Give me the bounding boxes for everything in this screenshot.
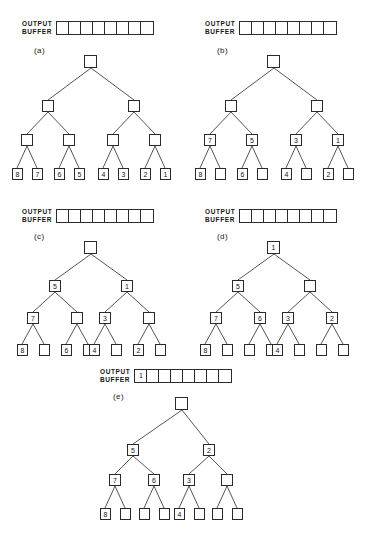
tree-edges — [0, 0, 182, 200]
tree-node-leaf: 1 — [160, 168, 171, 180]
tree-node-leaf — [301, 168, 312, 180]
tree-node-root — [175, 397, 188, 410]
tree-node-level1: 2 — [203, 444, 215, 456]
tree-node-level1: 5 — [127, 444, 139, 456]
tree-node-level2: 7 — [27, 312, 39, 324]
tree-node-level2 — [63, 134, 75, 146]
tree-node-leaf — [343, 168, 354, 180]
tree-edges — [183, 0, 365, 200]
tree-node-leaf — [139, 508, 150, 520]
tree-node-level1 — [128, 100, 140, 112]
tree-node-level2: 3 — [290, 134, 302, 146]
tree-node-leaf: 8 — [100, 508, 111, 520]
tree-node-level1 — [225, 100, 237, 112]
tree-node-leaf: 8 — [200, 344, 211, 356]
tree-node-leaf — [222, 344, 233, 356]
tree-node-leaf: 6 — [54, 168, 65, 180]
selection-tree-b: 7 5 3 1 8 6 4 2 — [183, 0, 365, 200]
tree-node-leaf: 4 — [281, 168, 292, 180]
tree-node-leaf: 8 — [195, 168, 206, 180]
tree-node-leaf — [212, 508, 223, 520]
tree-node-level2: 3 — [183, 474, 195, 486]
tree-node-leaf: 8 — [12, 168, 23, 180]
tree-node-level2: 6 — [254, 312, 266, 324]
tree-node-level2 — [71, 312, 83, 324]
panel-e: OUTPUT BUFFER 1 (e) — [0, 362, 365, 552]
tree-node-root — [84, 241, 97, 254]
tree-node-leaf: 4 — [98, 168, 109, 180]
panel-a: OUTPUT BUFFER (a) — [0, 0, 182, 200]
tree-node-level2 — [143, 312, 155, 324]
tree-node-level2 — [107, 134, 119, 146]
tree-node-leaf — [257, 168, 268, 180]
tree-node-level2 — [149, 134, 161, 146]
tree-node-level2: 3 — [99, 312, 111, 324]
tree-node-level1 — [42, 100, 54, 112]
tree-node-level2: 6 — [148, 474, 160, 486]
tree-node-leaf — [294, 344, 305, 356]
tree-node-leaf — [120, 508, 131, 520]
tree-node-level2: 7 — [210, 312, 222, 324]
tree-node-leaf: 3 — [118, 168, 129, 180]
tree-node-leaf — [194, 508, 205, 520]
tree-edges — [0, 362, 365, 552]
tree-node-level2: 5 — [246, 134, 258, 146]
tree-node-leaf: 7 — [32, 168, 43, 180]
tree-node-level1: 1 — [121, 280, 133, 292]
tree-node-level2: 2 — [326, 312, 338, 324]
tree-node-leaf: 5 — [74, 168, 85, 180]
tree-node-leaf — [215, 168, 226, 180]
tree-node-level1 — [304, 280, 316, 292]
tree-node-leaf — [244, 344, 255, 356]
tree-node-level2: 1 — [332, 134, 344, 146]
tree-node-leaf: 6 — [61, 344, 72, 356]
tree-node-root — [84, 55, 97, 68]
tree-node-root: 1 — [267, 241, 280, 254]
tree-node-leaf: 6 — [237, 168, 248, 180]
tree-node-leaf: 4 — [272, 344, 283, 356]
tree-node-leaf — [316, 344, 327, 356]
panel-b: OUTPUT BUFFER (b) — [183, 0, 365, 200]
tree-node-level1: 5 — [49, 280, 61, 292]
tree-node-leaf — [155, 344, 166, 356]
tree-node-leaf — [232, 508, 243, 520]
tree-node-leaf: 2 — [133, 344, 144, 356]
tree-node-level1: 5 — [232, 280, 244, 292]
tree-node-leaf — [39, 344, 50, 356]
tree-node-leaf: 8 — [17, 344, 28, 356]
tree-node-leaf — [159, 508, 170, 520]
selection-tree-e: 5 2 7 6 3 8 4 — [0, 362, 365, 552]
tree-node-level2: 7 — [109, 474, 121, 486]
tree-node-level2: 7 — [204, 134, 216, 146]
tree-node-leaf: 4 — [89, 344, 100, 356]
tree-node-leaf: 2 — [140, 168, 151, 180]
tree-node-level2: 3 — [282, 312, 294, 324]
tree-node-leaf — [338, 344, 349, 356]
tree-node-leaf — [111, 344, 122, 356]
tree-node-level2 — [221, 474, 233, 486]
tree-node-level2 — [21, 134, 33, 146]
tree-node-leaf: 2 — [323, 168, 334, 180]
selection-tree-a: 8 7 6 5 4 3 2 1 — [0, 0, 182, 200]
tree-node-root — [267, 55, 280, 68]
tree-node-level1 — [311, 100, 323, 112]
tree-node-leaf: 4 — [174, 508, 185, 520]
